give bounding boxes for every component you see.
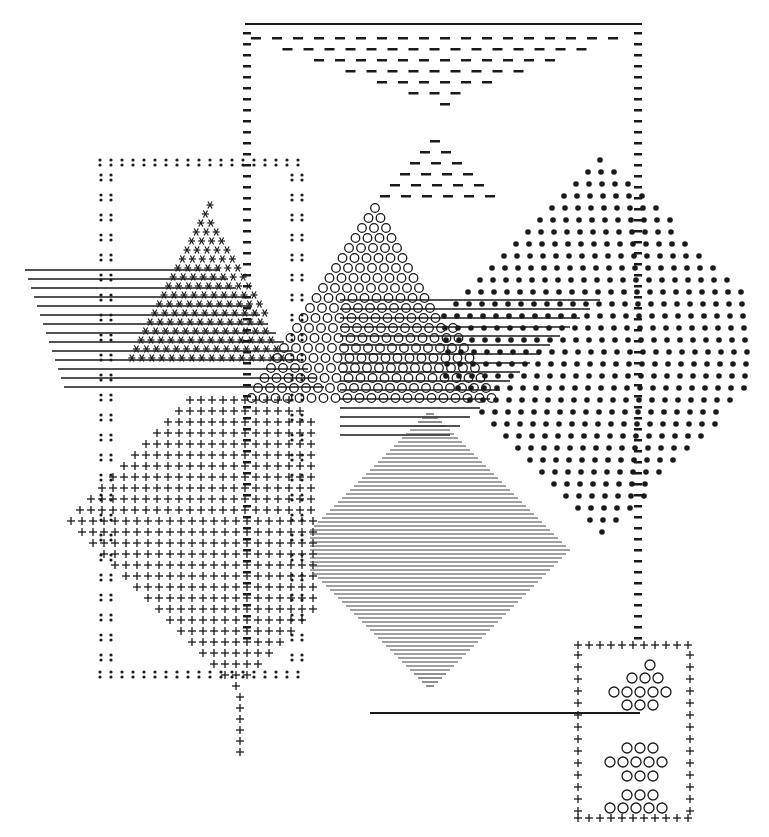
typewriter-art: [0, 0, 769, 837]
